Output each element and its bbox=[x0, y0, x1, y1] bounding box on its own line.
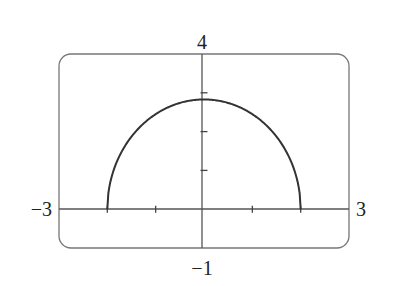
y-max-label: 4 bbox=[197, 31, 207, 53]
graph-window: 4 −1 −3 3 bbox=[0, 0, 393, 286]
y-min-label: −1 bbox=[191, 257, 212, 279]
ellipse-upper-half-curve bbox=[107, 99, 300, 209]
axis-ticks bbox=[107, 93, 300, 213]
x-max-label: 3 bbox=[356, 198, 366, 220]
viewing-frame bbox=[59, 54, 349, 248]
x-min-label: −3 bbox=[31, 198, 52, 220]
